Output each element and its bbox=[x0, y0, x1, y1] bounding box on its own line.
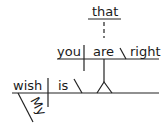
word-right: right bbox=[130, 44, 161, 59]
sentence-diagram: that you are right wish is My bbox=[0, 0, 168, 133]
word-wish: wish bbox=[13, 78, 42, 93]
main-complement-slash bbox=[74, 79, 82, 93]
complement-slash bbox=[120, 48, 126, 59]
word-my: My bbox=[27, 94, 49, 118]
word-that: that bbox=[92, 4, 118, 19]
word-is: is bbox=[58, 78, 69, 93]
pedestal bbox=[97, 82, 112, 93]
word-are: are bbox=[93, 44, 114, 59]
word-you: you bbox=[57, 44, 81, 59]
